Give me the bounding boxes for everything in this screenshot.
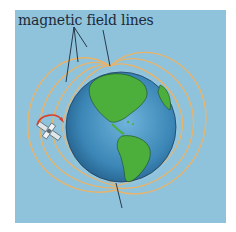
diagram-panel: magnetic field lines xyxy=(15,10,226,223)
earth-globe xyxy=(61,67,181,187)
field-lines-label: magnetic field lines xyxy=(18,12,154,28)
diagram-art xyxy=(15,10,226,223)
